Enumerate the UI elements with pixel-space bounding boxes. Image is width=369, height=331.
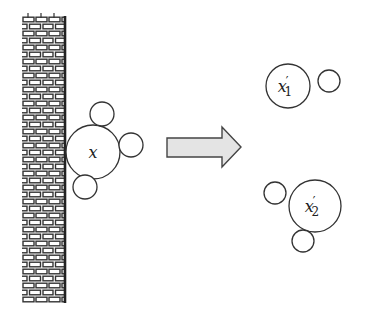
substituent-top [90,102,114,126]
fragment-2-substituent-left [264,182,286,204]
substituent-right [119,133,143,157]
substituent-bottom [73,175,97,199]
molecule-x-label: x [88,143,97,162]
wall-bricks [22,16,64,303]
transition-arrow-icon [167,127,241,167]
adsorbed-molecule [66,102,143,199]
fragment-2 [264,180,341,252]
fragment-1-substituent [318,70,340,92]
diagram-canvas: x x′1 x′2 [0,0,369,331]
brick-wall [22,13,65,303]
fragment-2-substituent-bottom [292,230,314,252]
